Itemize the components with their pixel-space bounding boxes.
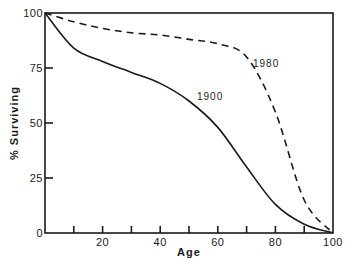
y-tick-label: 100 <box>23 7 43 19</box>
y-tick-label: 0 <box>36 227 43 239</box>
x-axis <box>74 226 304 233</box>
x-tick-labels: 20406080100 <box>96 236 343 248</box>
y-tick-labels: 0255075100 <box>23 7 43 239</box>
plot-frame <box>45 13 333 233</box>
y-tick-label: 25 <box>30 172 43 184</box>
y-tick-label: 75 <box>30 62 43 74</box>
survival-chart: 0255075100 20406080100 Age % Surviving 1… <box>0 0 356 267</box>
y-axis-label: % Surviving <box>8 86 20 160</box>
series-1980-line <box>45 13 333 233</box>
x-tick-label: 100 <box>323 236 343 248</box>
series-1900-label: 1900 <box>197 91 223 102</box>
y-axis <box>45 68 53 178</box>
x-axis-label: Age <box>177 246 201 258</box>
x-tick-label: 60 <box>211 236 224 248</box>
y-tick-label: 50 <box>30 117 43 129</box>
x-tick-label: 20 <box>96 236 109 248</box>
x-tick-label: 40 <box>154 236 167 248</box>
series-1900-line <box>45 13 333 233</box>
series-1980-label: 1980 <box>253 58 279 69</box>
x-tick-label: 80 <box>269 236 282 248</box>
